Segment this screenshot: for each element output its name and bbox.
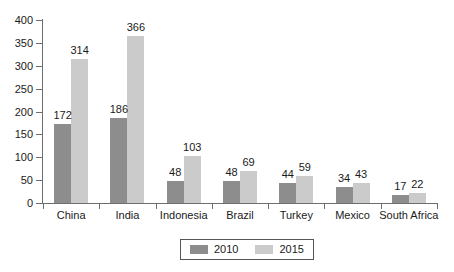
legend-label-2010: 2010 — [214, 244, 238, 255]
y-tick-100 — [36, 157, 42, 158]
bar-value-india-2010: 186 — [104, 104, 133, 115]
bar-turkey-2015 — [296, 176, 313, 203]
y-tick-400 — [36, 20, 42, 21]
bar-indonesia-2015 — [184, 156, 201, 203]
bar-india-2010 — [110, 118, 127, 203]
y-tick-label-200: 200 — [2, 107, 33, 118]
y-tick-150 — [36, 134, 42, 135]
bar-mexico-2015 — [353, 183, 370, 203]
bar-turkey-2010 — [279, 183, 296, 203]
bar-south-africa-2010 — [392, 195, 409, 203]
bar-value-indonesia-2010: 48 — [161, 167, 190, 178]
y-tick-label-150: 150 — [2, 129, 33, 140]
bar-value-mexico-2015: 43 — [347, 169, 376, 180]
legend-swatch-2015-icon — [255, 245, 273, 254]
bar-value-china-2010: 172 — [48, 110, 77, 121]
bar-china-2010 — [54, 124, 71, 203]
bar-india-2015 — [127, 36, 144, 203]
category-label-south-africa: South Africa — [373, 209, 445, 222]
y-tick-250 — [36, 89, 42, 90]
y-tick-label-350: 350 — [2, 38, 33, 49]
bar-value-turkey-2015: 59 — [290, 162, 319, 173]
bar-china-2015 — [71, 59, 88, 203]
bar-value-china-2015: 314 — [65, 45, 94, 56]
y-tick-350 — [36, 43, 42, 44]
legend-label-2015: 2015 — [279, 244, 303, 255]
legend-entry-2010: 2010 — [190, 244, 238, 255]
y-tick-label-250: 250 — [2, 84, 33, 95]
y-tick-label-100: 100 — [2, 152, 33, 163]
bar-value-indonesia-2015: 103 — [178, 142, 207, 153]
chart-legend: 2010 2015 — [180, 239, 314, 260]
x-axis-line — [42, 203, 438, 204]
bar-south-africa-2015 — [409, 193, 426, 203]
y-tick-label-50: 50 — [2, 175, 33, 186]
bar-value-india-2015: 366 — [121, 22, 150, 33]
y-tick-50 — [36, 180, 42, 181]
legend-entry-2015: 2015 — [255, 244, 303, 255]
y-tick-label-400: 400 — [2, 15, 33, 26]
bar-value-brazil-2010: 48 — [217, 167, 246, 178]
bar-value-south-africa-2015: 22 — [403, 179, 432, 190]
y-tick-0 — [36, 203, 42, 204]
bar-mexico-2010 — [336, 187, 353, 203]
y-tick-label-300: 300 — [2, 61, 33, 72]
bar-brazil-2010 — [223, 181, 240, 203]
y-tick-label-0: 0 — [2, 198, 33, 209]
y-tick-300 — [36, 66, 42, 67]
bar-value-brazil-2015: 69 — [234, 157, 263, 168]
y-tick-200 — [36, 112, 42, 113]
bar-indonesia-2010 — [167, 181, 184, 203]
bar-chart: 050100150200250300350400 172314186366481… — [0, 0, 454, 272]
legend-swatch-2010-icon — [190, 245, 208, 254]
